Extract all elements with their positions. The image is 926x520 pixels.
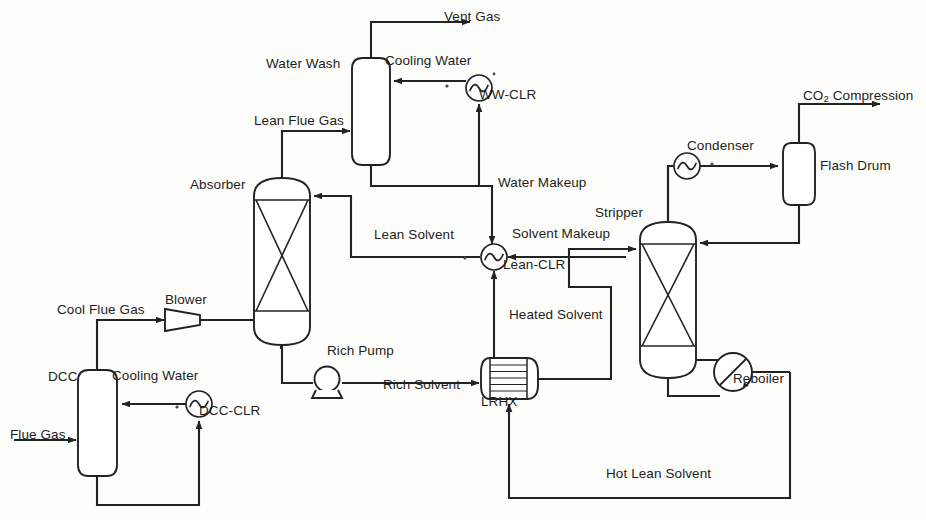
equipment-flash-drum	[783, 143, 815, 205]
equipment-label-water-wash: Water Wash	[266, 57, 340, 71]
compression-text: Compression	[829, 88, 913, 103]
stream-label-lean-flue-gas: Lean Flue Gas	[254, 114, 344, 128]
stream-label-hot-lean-solvent: Hot Lean Solvent	[606, 467, 711, 481]
stream-flash-reflux	[700, 205, 799, 243]
equipment-label-dcc: DCC	[48, 370, 78, 384]
equipment-label-stripper: Stripper	[595, 206, 643, 220]
equipment-lrhx	[481, 358, 538, 399]
stream-absorber-bottoms	[282, 345, 313, 383]
stream-label-water-makeup: Water Makeup	[498, 176, 586, 190]
stream-label-cooling-water-dcc: Cooling Water	[112, 369, 198, 383]
stream-co2-compression	[799, 104, 880, 143]
equipment-label-blower: Blower	[165, 293, 207, 307]
exchanger-condenser	[674, 153, 700, 179]
exchanger-label-ww-clr: WW-CLR	[479, 88, 536, 102]
exchanger-label-reboiler: Reboiler	[733, 372, 784, 386]
stream-reboiler-return	[668, 378, 720, 396]
exchanger-label-dcc-clr: DCC-CLR	[199, 404, 260, 418]
stream-water-makeup	[479, 186, 492, 244]
equipment-blower	[165, 309, 200, 331]
stream-cool-flue-gas	[97, 320, 164, 370]
equipment-label-flash-drum: Flash Drum	[820, 159, 891, 173]
equipment-stripper	[640, 222, 696, 378]
exchanger-label-condenser: Condenser	[687, 139, 754, 153]
stream-label-co2-compression: CO2 Compression	[803, 89, 913, 104]
equipment-dcc	[78, 370, 117, 476]
stream-label-vent-gas: Vent Gas	[444, 10, 500, 24]
equipment-rich-pump	[312, 367, 342, 399]
equipment-absorber	[254, 178, 310, 345]
stream-label-cool-flue-gas: Cool Flue Gas	[57, 303, 145, 317]
pump-label-rich-pump: Rich Pump	[327, 344, 394, 358]
stream-label-rich-solvent: Rich Solvent	[383, 378, 460, 392]
stream-label-heated-solvent: Heated Solvent	[509, 308, 603, 322]
stream-label-solvent-makeup: Solvent Makeup	[512, 227, 610, 241]
stream-label-cooling-water-ww: Cooling Water	[385, 54, 471, 68]
equipment-water-wash	[352, 58, 390, 165]
equipment-label-lrhx: LRHX	[481, 395, 517, 409]
stream-label-flue-gas: Flue Gas	[10, 428, 66, 442]
pfd-canvas	[0, 0, 926, 520]
co2-text: CO	[803, 88, 823, 103]
exchanger-label-lean-clr: Lean-CLR	[503, 258, 565, 272]
equipment-label-absorber: Absorber	[190, 178, 246, 192]
stream-label-lean-solvent: Lean Solvent	[374, 228, 454, 242]
stream-lean-flue-gas	[282, 131, 350, 178]
process-flow-diagram: DCC Blower Absorber Water Wash Stripper …	[0, 0, 926, 520]
